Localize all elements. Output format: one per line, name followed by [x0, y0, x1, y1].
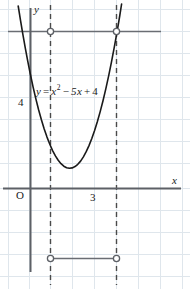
equation-constant: 4 — [92, 85, 98, 97]
open-marker-top-left — [47, 28, 53, 34]
open-marker-bottom-left — [47, 255, 53, 261]
equation-label: y=x2−5x+4 — [36, 84, 98, 97]
grid-lines — [0, 0, 190, 289]
y-axis-label: y — [34, 4, 39, 15]
open-marker-top-right — [113, 28, 119, 34]
open-point-markers — [47, 28, 119, 261]
open-marker-bottom-right — [113, 255, 119, 261]
equation-term2: 5x — [71, 85, 83, 97]
x-axis-label: x — [172, 175, 177, 186]
equation-equals: = — [41, 85, 51, 97]
equation-minus: − — [61, 85, 71, 97]
y-intercept-label: 4 — [18, 97, 24, 108]
x-tick-label-3: 3 — [90, 192, 96, 203]
origin-label: O — [16, 190, 24, 201]
equation-plus: + — [83, 85, 93, 97]
graph-figure: y x O 4 3 y=x2−5x+4 — [0, 0, 190, 289]
graph-canvas — [0, 0, 190, 289]
